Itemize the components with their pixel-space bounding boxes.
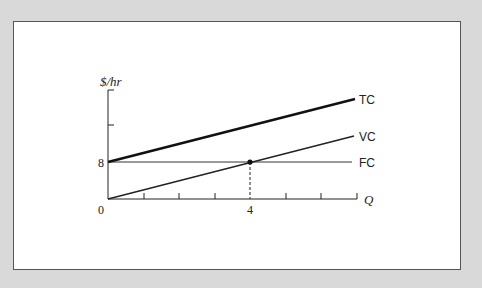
vc-line <box>108 136 354 199</box>
origin-label: 0 <box>98 203 104 217</box>
y-axis-label: $/hr <box>100 74 123 89</box>
y-tick-label-8: 8 <box>98 156 104 170</box>
tc-label: TC <box>359 93 375 107</box>
tc-line <box>108 99 355 162</box>
vc-label: VC <box>359 130 376 144</box>
fc-label: FC <box>359 156 375 170</box>
cost-chart: $/hr 8 0 4 Q TC VC FC <box>0 0 482 288</box>
intersection-point <box>247 159 252 164</box>
x-tick-label-4: 4 <box>247 203 253 217</box>
x-axis-label: Q <box>364 192 374 207</box>
